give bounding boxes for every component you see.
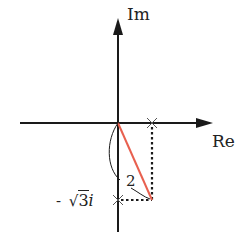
radical-sign: √ xyxy=(69,192,79,210)
real-axis-label: Re xyxy=(212,133,235,150)
real-axis-arrowhead xyxy=(196,118,213,128)
minus-sign: - xyxy=(56,192,61,210)
complex-plane-diagram: Im Re 2 - √3i xyxy=(0,0,249,238)
imaginary-axis-label: Im xyxy=(127,6,150,23)
modulus-label: 2 xyxy=(126,174,136,189)
diagram-graphics xyxy=(0,0,249,238)
imaginary-unit: i xyxy=(89,191,94,210)
radicand: 3 xyxy=(78,190,88,210)
imaginary-axis-arrowhead xyxy=(113,18,123,35)
neg-sqrt3-i-label: - √3i xyxy=(56,193,94,209)
